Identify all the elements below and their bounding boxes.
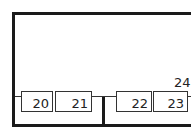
component-label: 21 [71,97,88,110]
frame-top-line [12,12,191,15]
component-label: 20 [32,97,49,110]
component-23: 23 [153,91,188,112]
wire [188,96,191,97]
component-21: 21 [55,91,92,112]
divider-line [102,96,105,126]
component-20: 20 [21,91,53,112]
callout-label-24: 24 [174,76,191,89]
frame-left-line [12,12,15,127]
component-label: 22 [131,97,148,110]
component-22: 22 [116,91,152,112]
component-label: 23 [167,97,184,110]
wire [92,96,116,97]
